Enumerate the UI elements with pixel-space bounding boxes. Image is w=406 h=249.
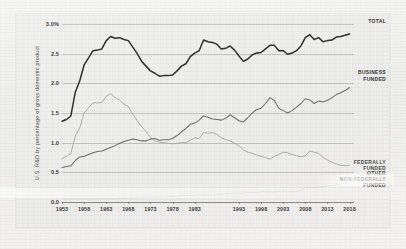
x-tick-label: 1998 bbox=[255, 206, 267, 212]
x-tick-mark bbox=[239, 202, 240, 204]
y-tick-label: 1.5 bbox=[51, 110, 59, 116]
y-tick-label: 2.0 bbox=[51, 80, 59, 86]
x-tick-label: 2008 bbox=[299, 206, 311, 212]
y-tick-label: 0.0 bbox=[51, 199, 59, 205]
x-tick-mark bbox=[84, 202, 85, 204]
chart-figure: U.S. R&D by percentage of gross domestic… bbox=[16, 14, 390, 228]
series-lines bbox=[62, 24, 354, 202]
x-tick-mark bbox=[305, 202, 306, 204]
x-tick-label: 1968 bbox=[122, 206, 134, 212]
x-tick-label: 1993 bbox=[233, 206, 245, 212]
x-tick-mark bbox=[283, 202, 284, 204]
x-tick-label: 1983 bbox=[189, 206, 201, 212]
series-line-other-non-federally-funded bbox=[62, 184, 350, 199]
x-tick-mark bbox=[62, 202, 63, 204]
series-line-federally-funded bbox=[62, 93, 350, 165]
x-tick-label: 2003 bbox=[277, 206, 289, 212]
x-tick-label: 1973 bbox=[144, 206, 156, 212]
annotation-total: TOTAL bbox=[368, 18, 386, 24]
x-tick-label: 1953 bbox=[56, 206, 68, 212]
x-tick-mark bbox=[261, 202, 262, 204]
x-tick-mark bbox=[327, 202, 328, 204]
x-tick-mark bbox=[350, 202, 351, 204]
y-tick-label: 1.0 bbox=[51, 140, 59, 146]
x-tick-mark bbox=[173, 202, 174, 204]
x-tick-label: 1958 bbox=[78, 206, 90, 212]
x-tick-label: 2018 bbox=[343, 206, 355, 212]
annotation-other-non-federally-funded: OTHER NON-FEDERALLY FUNDED bbox=[340, 170, 386, 189]
x-tick-mark bbox=[128, 202, 129, 204]
y-tick-label: 0.5 bbox=[51, 169, 59, 175]
x-tick-mark bbox=[106, 202, 107, 204]
y-tick-label: 2.5 bbox=[51, 51, 59, 57]
x-tick-label: 1978 bbox=[166, 206, 178, 212]
y-tick-label: 3.0% bbox=[46, 21, 59, 27]
series-line-business-funded bbox=[62, 87, 350, 167]
series-line-total bbox=[62, 34, 350, 121]
x-tick-label: 1963 bbox=[100, 206, 112, 212]
x-tick-mark bbox=[195, 202, 196, 204]
plot-area: 0.00.51.01.52.02.53.0% 19531958196319681… bbox=[62, 24, 354, 202]
annotation-business-funded: BUSINESS FUNDED bbox=[358, 69, 386, 82]
x-tick-mark bbox=[150, 202, 151, 204]
x-tick-label: 2013 bbox=[321, 206, 333, 212]
y-axis-title: U.S. R&D by percentage of gross domestic… bbox=[34, 18, 40, 208]
